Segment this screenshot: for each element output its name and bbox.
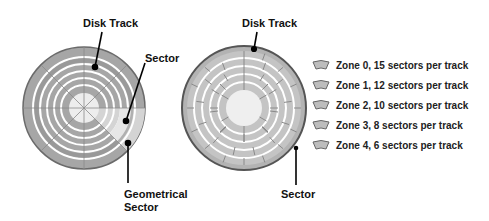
legend-label: Zone 4, 6 sectors per track — [336, 140, 463, 151]
zone-sector-icon — [312, 120, 330, 130]
legend-label: Zone 0, 15 sectors per track — [336, 60, 468, 71]
legend-item-zone-3: Zone 3, 8 sectors per track — [312, 115, 468, 135]
legend-item-zone-1: Zone 1, 12 sectors per track — [312, 75, 468, 95]
legend-item-zone-2: Zone 2, 10 sectors per track — [312, 95, 468, 115]
legend-label: Zone 3, 8 sectors per track — [336, 120, 463, 131]
legend-item-zone-4: Zone 4, 6 sectors per track — [312, 135, 468, 155]
zone-sector-icon — [312, 80, 330, 90]
geometrical-sector-label-line2: Sector — [124, 201, 158, 214]
zone-sector-icon — [312, 100, 330, 110]
left-disk — [23, 32, 145, 183]
legend-label: Zone 1, 12 sectors per track — [336, 80, 468, 91]
zone-sector-icon — [312, 60, 330, 70]
left-disk-track-label: Disk Track — [83, 17, 138, 30]
legend-item-zone-0: Zone 0, 15 sectors per track — [312, 55, 468, 75]
legend-label: Zone 2, 10 sectors per track — [336, 100, 468, 111]
zone-sector-icon — [312, 140, 330, 150]
right-disk-track-label: Disk Track — [242, 17, 297, 30]
zone-legend: Zone 0, 15 sectors per track Zone 1, 12 … — [312, 55, 468, 155]
right-disk — [182, 32, 306, 185]
left-sector-label: Sector — [145, 52, 179, 65]
geometrical-sector-label-line1: Geometrical — [124, 188, 188, 201]
right-sector-label: Sector — [281, 188, 315, 201]
